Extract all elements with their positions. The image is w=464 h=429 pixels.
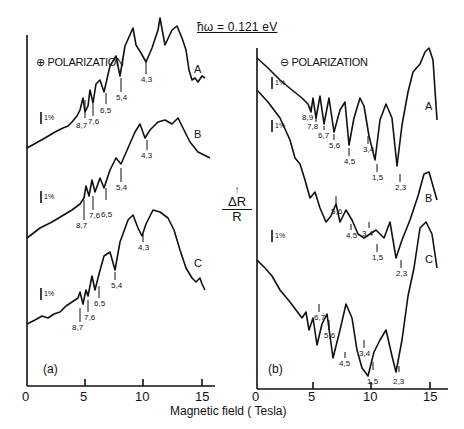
panel-b-C-label-1-5: 1,5: [367, 377, 378, 386]
panel-a-xtick-10: 10: [135, 389, 149, 404]
panel-b-xtick-5: 5: [308, 389, 315, 404]
panel-a-curve-label-B: B: [194, 128, 201, 140]
panel-b-A-label-6-7: 6,7: [318, 131, 329, 140]
panel-a-C-label-6-5: 6,5: [94, 299, 105, 308]
panel-a-curve-label-C: C: [194, 257, 202, 269]
panel-b-B-label-1-5: 1,5: [372, 253, 383, 262]
panel-a-scale-label-A: 1%: [44, 114, 54, 121]
panel-a-curve-B: [27, 118, 210, 238]
panel-a-xtick-15: 15: [195, 389, 209, 404]
panel-a-A-label-5-4: 5,4: [116, 93, 127, 102]
panel-b-B-label-4-5: 4,5: [346, 231, 357, 240]
panel-b-C-label-3-4: 3,4: [359, 349, 370, 358]
panel-b-A-label-3-4: 3,4: [363, 145, 374, 154]
panel-b-xtick-0: 0: [252, 389, 259, 404]
panel-a-A-label-4-3: 4,3: [141, 75, 152, 84]
y-axis-label: ↑ ΔR R: [222, 185, 252, 224]
panel-b-curve-label-C: C: [425, 253, 433, 265]
panel-a-C-label-8-7: 8,7: [72, 323, 83, 332]
panel-b-B-label-3-4: 3,4: [362, 229, 373, 238]
panel-a-B-label-4-3: 4,3: [141, 151, 152, 160]
panel-b-A-label-8-9: 8,9: [302, 113, 313, 122]
panel-a-curve-A: [27, 18, 205, 148]
panel-b-C-label-5-6: 5,6: [324, 331, 335, 340]
panel-b-scale-label-C: 1%: [275, 232, 285, 239]
panel-b-curve-label-A: A: [425, 100, 432, 112]
panel-a-B-label-8-7: 8,7: [76, 221, 87, 230]
x-axis-label: Magnetic field ( Tesla): [170, 404, 287, 418]
panel-a-xtick-0: 0: [22, 389, 29, 404]
panel-a-scale-label-B: 1%: [44, 193, 54, 200]
panel-b-C-label-6-7: 6,7: [314, 313, 325, 322]
panel-a-A-label-6-5: 6,5: [100, 106, 111, 115]
panel-a-C-label-7-6: 7,6: [84, 313, 95, 322]
panel-b-curve-C: [257, 222, 437, 376]
panel-b-scale-label-A: 1%: [275, 79, 285, 86]
panel-a-title: ⊕ POLARIZATION: [36, 56, 124, 69]
panel-b-xtick-10: 10: [363, 389, 377, 404]
panel-a-tag: (a): [43, 362, 58, 376]
panel-a-A-label-7-6: 7,6: [88, 117, 99, 126]
panel-b-curve-label-B: B: [425, 192, 432, 204]
panel-b-A-label-1-5: 1,5: [372, 173, 383, 182]
panel-b-tag: (b): [268, 362, 283, 376]
panel-b-A-label-5-6: 5,6: [329, 141, 340, 150]
photon-energy-title: ħω = 0.121 eV: [197, 20, 277, 34]
panel-a-A-label-8-7: 8,7: [76, 121, 87, 130]
panel-b-A-label-4-5: 4,5: [344, 157, 355, 166]
panel-a-B-label-7-6: 7,6: [89, 211, 100, 220]
y-axis-numerator: ΔR: [222, 195, 252, 210]
panel-b-B-label-2-3: 2,3: [396, 269, 407, 278]
y-axis-denominator: R: [222, 210, 252, 224]
panel-a-B-label-5-4: 5,4: [116, 183, 127, 192]
panel-b-A-label-7-8: 7,8: [307, 122, 318, 131]
panel-a-curve-label-A: A: [194, 63, 201, 75]
panel-b-A-label-2-3: 2,3: [395, 183, 406, 192]
panel-b-C-label-4-5: 4,5: [339, 359, 350, 368]
panel-a-scale-label-C: 1%: [44, 290, 54, 297]
panel-a-xtick-5: 5: [80, 389, 87, 404]
panel-a-curve-C: [27, 210, 205, 324]
panel-a-C-label-4-3: 4,3: [138, 243, 149, 252]
panel-b-title: ⊖ POLARIZATION: [280, 56, 368, 69]
panel-a-C-label-5-4: 5,4: [111, 281, 122, 290]
panel-a-B-label-6-5: 6,5: [101, 210, 112, 219]
panel-b-B-label-5-6: 5,6: [331, 207, 342, 216]
panel-b-scale-label-B: 1%: [275, 122, 285, 129]
panel-b-C-label-2-3: 2,3: [393, 377, 404, 386]
panel-b-xtick-15: 15: [423, 389, 437, 404]
